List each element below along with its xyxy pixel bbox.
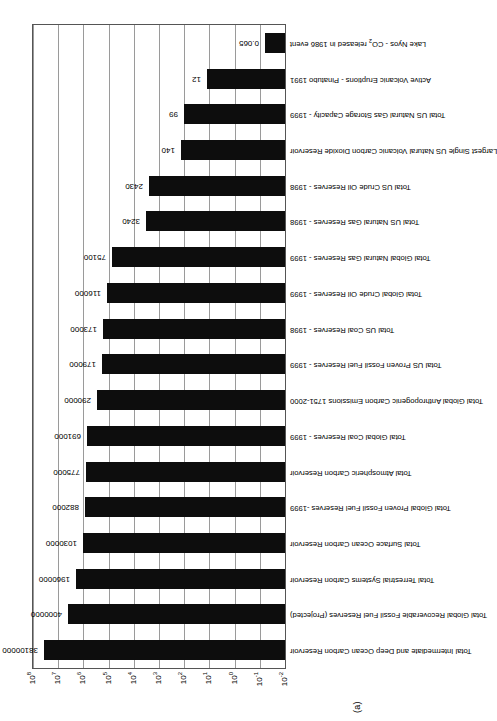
- category-tick: Total US Coal Reserves - 1998: [288, 312, 366, 348]
- bar-item[interactable]: 38100000: [33, 640, 285, 660]
- category-label: Total Global Proven Fossil Fuel Reserves…: [290, 504, 451, 512]
- bar-value-label: 173000: [70, 325, 97, 333]
- bar-series: 3810000040000001960000103000088200077500…: [33, 25, 285, 668]
- bar-item[interactable]: 12: [33, 69, 285, 89]
- bar-value-label: 75100: [83, 253, 105, 261]
- subfigure-label: (a): [352, 701, 362, 713]
- category-label: Lake Nyos - CO2 released in 1986 event: [290, 40, 426, 48]
- category-tick: Total Global Coal Reserves - 1999: [288, 419, 366, 455]
- bar-rect[interactable]: [107, 283, 285, 303]
- bar-item[interactable]: 1960000: [33, 569, 285, 589]
- bar-rect[interactable]: [207, 69, 285, 89]
- category-label: Total Terrestrial Systems Carbon Reservo…: [290, 576, 434, 584]
- bar-item[interactable]: 290000: [33, 390, 285, 410]
- bar-item[interactable]: 775000: [33, 462, 285, 482]
- y-axis-tick-label: 108: [29, 672, 37, 684]
- category-label: Total Atmospheric Carbon Reservoir: [290, 469, 412, 477]
- category-tick: Total US Crude Oil Reserves - 1998: [288, 169, 366, 205]
- category-tick: Total US Natural Gas Reserves - 1998: [288, 205, 366, 241]
- bar-item[interactable]: 2430: [33, 176, 285, 196]
- bar-item[interactable]: 3240: [33, 211, 285, 231]
- category-label: Total Global Anthropogenic Carbon Emissi…: [290, 397, 483, 405]
- bar-value-label: 38100000: [2, 646, 38, 654]
- category-tick: Lake Nyos - CO2 released in 1986 event: [288, 26, 366, 62]
- category-label: Total Global Natural Gas Reserves - 1999: [290, 254, 431, 262]
- bar-rect[interactable]: [146, 211, 285, 231]
- category-label: Total US Proven Fossil Fuel Reserves - 1…: [290, 362, 442, 370]
- bar-item[interactable]: 179000: [33, 354, 285, 374]
- category-label: Total US Natural Gas Reserves - 1998: [290, 219, 419, 227]
- category-tick: Total US Proven Fossil Fuel Reserves - 1…: [288, 348, 366, 384]
- category-label: Total US Crude Oil Reserves - 1998: [290, 183, 411, 191]
- bar-item[interactable]: 75100: [33, 247, 285, 267]
- bar-item[interactable]: 4000000: [33, 604, 285, 624]
- category-label: Total US Natural Gas Storage Capacity - …: [290, 112, 445, 120]
- bar-rect[interactable]: [68, 604, 285, 624]
- bar-value-label: 116000: [75, 289, 101, 297]
- bar-item[interactable]: 116000: [33, 283, 285, 303]
- category-tick: Total Global Recoverable Fossil Fuel Res…: [288, 598, 366, 634]
- bar-rect[interactable]: [149, 176, 285, 196]
- y-axis-tick-label: 101: [205, 672, 213, 684]
- bar-value-label: 1030000: [46, 539, 77, 547]
- bar-value-label: 290000: [64, 396, 91, 404]
- bar-rect[interactable]: [112, 247, 285, 267]
- category-tick: Total Intermediate and Deep Ocean Carbon…: [288, 633, 366, 669]
- category-tick: Total Global Crude Oil Reserves - 1999: [288, 276, 366, 312]
- bar-item[interactable]: 1030000: [33, 533, 285, 553]
- category-tick: Total Atmospheric Carbon Reservoir: [288, 455, 366, 491]
- category-tick: Active Volcanic Eruptions - Pinatubo 199…: [288, 62, 366, 98]
- bar-rect[interactable]: [103, 319, 285, 339]
- bar-item[interactable]: 0.065: [33, 33, 285, 53]
- bar-rect[interactable]: [102, 354, 285, 374]
- bar-item[interactable]: 882000: [33, 497, 285, 517]
- bar-value-label: 4000000: [31, 610, 62, 618]
- category-label: Total Surface Ocean Carbon Reservoir: [290, 540, 420, 548]
- y-axis-tick-label: 100: [231, 672, 239, 684]
- bar-value-label: 12: [193, 75, 202, 83]
- bar-item[interactable]: 140: [33, 140, 285, 160]
- category-tick: Total Surface Ocean Carbon Reservoir: [288, 526, 366, 562]
- category-tick: Total Global Natural Gas Reserves - 1999: [288, 240, 366, 276]
- bar-rect[interactable]: [184, 104, 285, 124]
- y-axis-tick-label: 105: [105, 672, 113, 684]
- bar-rect[interactable]: [87, 426, 285, 446]
- y-axis-tick-label: 107: [54, 672, 62, 684]
- bar-value-label: 3240: [122, 217, 140, 225]
- y-axis-tick-label: 102: [180, 672, 188, 684]
- bar-item[interactable]: 173000: [33, 319, 285, 339]
- bar-rect[interactable]: [181, 140, 285, 160]
- bar-rect[interactable]: [85, 497, 285, 517]
- bar-rect[interactable]: [265, 33, 285, 53]
- plot-area: 10-210-1100101102103104105106107108 3810…: [32, 24, 286, 669]
- category-label: Largest Single US Natural Volcanic Carbo…: [290, 147, 497, 155]
- category-label: Active Volcanic Eruptions - Pinatubo 199…: [290, 76, 431, 84]
- bar-item[interactable]: 99: [33, 104, 285, 124]
- bar-item[interactable]: 691000: [33, 426, 285, 446]
- bar-value-label: 140: [161, 146, 174, 154]
- category-tick: Total US Natural Gas Storage Capacity - …: [288, 97, 366, 133]
- y-axis-tick-label: 103: [155, 672, 163, 684]
- y-axis-tick-label: 104: [130, 672, 138, 684]
- category-label: Total US Coal Reserves - 1998: [290, 326, 394, 334]
- category-tick: Total Terrestrial Systems Carbon Reservo…: [288, 562, 366, 598]
- category-tick: Total Global Anthropogenic Carbon Emissi…: [288, 383, 366, 419]
- bar-rect[interactable]: [44, 640, 285, 660]
- category-label: Total Global Crude Oil Reserves - 1999: [290, 290, 422, 298]
- y-axis-tick-label: 10-2: [281, 672, 289, 686]
- category-label: Total Intermediate and Deep Ocean Carbon…: [290, 647, 472, 655]
- bar-rect[interactable]: [76, 569, 285, 589]
- bar-rect[interactable]: [83, 533, 285, 553]
- bar-rect[interactable]: [97, 390, 285, 410]
- bar-value-label: 99: [169, 110, 178, 118]
- bar-value-label: 179000: [70, 360, 97, 368]
- bar-rect[interactable]: [86, 462, 285, 482]
- y-axis-tick-label: 106: [79, 672, 87, 684]
- bar-value-label: 691000: [55, 432, 82, 440]
- bar-value-label: 882000: [52, 503, 79, 511]
- bar-value-label: 0.065: [238, 39, 258, 47]
- y-axis-tick-label: 10-1: [256, 672, 264, 686]
- bar-value-label: 1960000: [39, 575, 70, 583]
- bar-value-label: 2430: [126, 182, 144, 190]
